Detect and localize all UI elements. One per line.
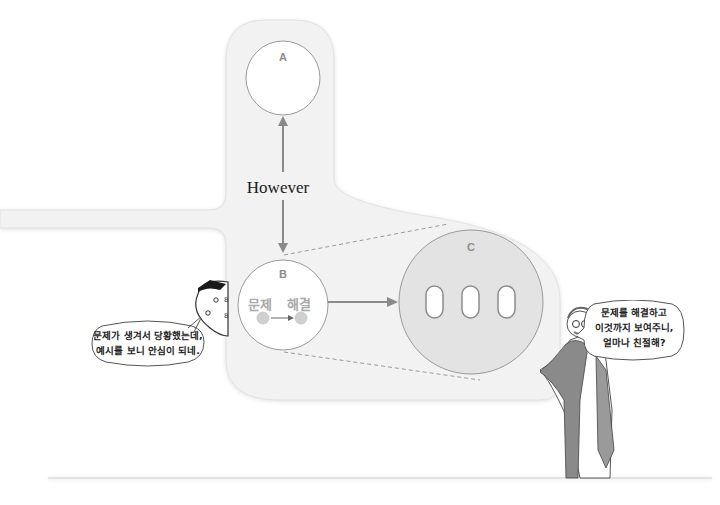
node-b-label: B <box>275 268 291 280</box>
teacher-speech-line-1: 문제를 해결하고 <box>584 305 684 320</box>
teacher-speech-line-2: 이것까지 보여주니, <box>584 320 684 335</box>
svg-text:8: 8 <box>224 296 228 304</box>
connector-label: However <box>228 178 328 198</box>
node-b-to-word: 해결 <box>287 294 311 313</box>
node-a-label: A <box>275 51 291 63</box>
node-b-from-word: 문제 <box>248 294 272 313</box>
node-c-label: C <box>463 241 479 253</box>
teacher-speech-line-3: 얼마나 친절해? <box>584 335 684 350</box>
svg-text:8: 8 <box>224 312 228 320</box>
student-speech-line-1: 문제가 생겨서 당황했는데, <box>92 328 204 343</box>
student-speech-line-2: 예시를 보니 안심이 되네. <box>92 343 204 358</box>
